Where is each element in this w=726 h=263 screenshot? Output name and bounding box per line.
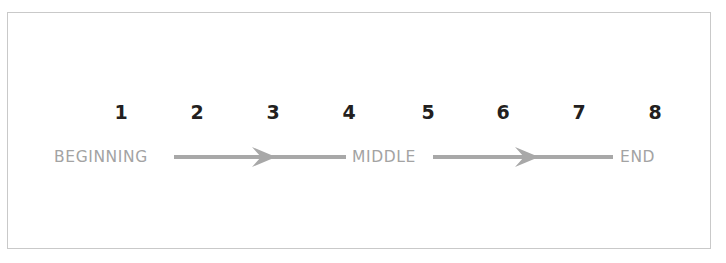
figure-frame: 1 2 3 4 5 6 7 8 BEGINNING MIDDLE END xyxy=(7,12,711,249)
scale-tick-2: 2 xyxy=(182,97,212,127)
timeline: BEGINNING MIDDLE END xyxy=(8,141,712,173)
stage-label-beginning: BEGINNING xyxy=(54,141,148,173)
scale-tick-8: 8 xyxy=(640,97,670,127)
scale-tick-1: 1 xyxy=(106,97,136,127)
scale-tick-5: 5 xyxy=(413,97,443,127)
stage-label-end: END xyxy=(620,141,655,173)
scale-tick-4: 4 xyxy=(334,97,364,127)
scale-tick-6: 6 xyxy=(488,97,518,127)
scale-tick-7: 7 xyxy=(564,97,594,127)
arrow-beginning-to-middle-icon xyxy=(174,141,346,173)
numbered-scale: 1 2 3 4 5 6 7 8 xyxy=(8,97,712,127)
scale-tick-3: 3 xyxy=(258,97,288,127)
arrow-middle-to-end-icon xyxy=(433,141,613,173)
stage-label-middle: MIDDLE xyxy=(352,141,416,173)
